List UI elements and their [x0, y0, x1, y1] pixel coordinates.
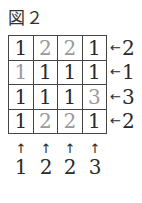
arrow-up-icon: ↑ — [58, 142, 82, 156]
arrow-left-icon: ← — [110, 89, 121, 104]
grid-cell: 1 — [9, 85, 34, 110]
grid-cell: 1 — [58, 60, 83, 85]
arrow-up-icon: ↑ — [9, 142, 33, 156]
grid-row: 1 1 1 1 — [9, 60, 107, 85]
figure-title: 図２ — [8, 4, 44, 29]
arrow-left-icon: ← — [110, 40, 121, 55]
grid-cell: 1 — [9, 60, 34, 85]
hint-value: 2 — [34, 156, 58, 178]
hint-value: 1 — [9, 156, 33, 178]
right-hint-row-2: ←1 — [110, 62, 135, 82]
grid-cell: 1 — [82, 36, 107, 61]
hint-value: 2 — [122, 36, 135, 60]
grid-cell: 1 — [9, 109, 34, 134]
bottom-hint-col-2: ↑ 2 — [34, 142, 58, 178]
right-hint-row-3: ←3 — [110, 87, 135, 107]
grid-cell: 2 — [58, 109, 83, 134]
arrow-left-icon: ← — [110, 64, 121, 79]
bottom-hint-col-3: ↑ 2 — [58, 142, 82, 178]
grid-cell: 3 — [82, 85, 107, 110]
grid-row: 1 2 2 1 — [9, 36, 107, 61]
arrow-left-icon: ← — [110, 113, 121, 128]
arrow-up-icon: ↑ — [83, 142, 107, 156]
grid-cell: 1 — [58, 85, 83, 110]
grid-cell: 2 — [58, 36, 83, 61]
grid-row: 1 1 1 3 — [9, 85, 107, 110]
right-hint-row-1: ←2 — [110, 38, 135, 58]
bottom-hint-col-4: ↑ 3 — [83, 142, 107, 178]
grid-cell: 1 — [9, 36, 34, 61]
grid-cell: 1 — [33, 60, 58, 85]
arrow-up-icon: ↑ — [34, 142, 58, 156]
bottom-hint-col-1: ↑ 1 — [9, 142, 33, 178]
grid-cell: 2 — [33, 36, 58, 61]
hint-value: 1 — [122, 60, 135, 84]
hint-value: 2 — [58, 156, 82, 178]
grid-cell: 2 — [33, 109, 58, 134]
number-grid: 1 2 2 1 1 1 1 1 1 1 1 3 1 2 2 1 — [8, 35, 107, 134]
grid-cell: 1 — [82, 60, 107, 85]
hint-value: 3 — [122, 85, 135, 109]
grid-row: 1 2 2 1 — [9, 109, 107, 134]
grid-cell: 1 — [82, 109, 107, 134]
right-hint-row-4: ←2 — [110, 111, 135, 131]
hint-value: 2 — [122, 109, 135, 133]
grid-cell: 1 — [33, 85, 58, 110]
hint-value: 3 — [83, 156, 107, 178]
